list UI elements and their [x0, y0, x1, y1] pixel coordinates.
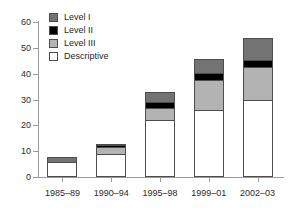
bar-segment-descriptive[interactable] — [96, 154, 126, 177]
x-axis-tick — [160, 178, 161, 182]
legend-item-label: Level I — [64, 13, 91, 22]
bar-segment-level-i[interactable] — [194, 59, 224, 75]
bar-stack — [194, 59, 224, 177]
bar-segment-descriptive[interactable] — [47, 162, 77, 178]
legend-item-descriptive[interactable]: Descriptive — [49, 50, 109, 63]
legend-swatch-icon — [49, 26, 58, 35]
x-axis-tick — [111, 178, 112, 182]
bar-segment-level-iii[interactable] — [243, 67, 273, 101]
y-axis-tick-label: 60 — [0, 18, 31, 27]
legend-swatch-icon — [49, 39, 58, 48]
legend-item-level-iii[interactable]: Level III — [49, 37, 109, 50]
y-axis-tick-label: 30 — [0, 96, 31, 105]
x-axis-line — [38, 177, 284, 178]
y-axis-tick-label: 20 — [0, 121, 31, 130]
bar-stack — [96, 144, 126, 177]
bar-segment-descriptive[interactable] — [243, 100, 273, 178]
chart-legend: Level ILevel IILevel IIIDescriptive — [49, 11, 109, 63]
y-axis-tick-label: 50 — [0, 44, 31, 53]
legend-item-label: Descriptive — [64, 52, 109, 61]
legend-item-label: Level II — [64, 26, 93, 35]
y-axis-tick-label: 40 — [0, 70, 31, 79]
bar-stack — [243, 38, 273, 177]
legend-swatch-icon — [49, 13, 58, 22]
x-axis-label-1995–98: 1995–98 — [136, 188, 185, 198]
bar-1990–94[interactable] — [96, 141, 126, 177]
bar-segment-descriptive[interactable] — [145, 120, 175, 177]
bar-stack — [47, 157, 77, 177]
bar-segment-level-i[interactable] — [243, 38, 273, 61]
bar-1999–01[interactable] — [194, 56, 224, 177]
bar-1995–98[interactable] — [145, 89, 175, 177]
x-axis-label-1990–94: 1990–94 — [87, 188, 136, 198]
y-axis-tick-label: 10 — [0, 147, 31, 156]
x-axis-label-2002–03: 2002–03 — [233, 188, 282, 198]
x-axis-tick — [209, 178, 210, 182]
bar-segment-descriptive[interactable] — [194, 110, 224, 177]
bar-segment-level-iii[interactable] — [194, 80, 224, 111]
y-axis-tick-label: 0 — [0, 173, 31, 182]
bar-1985–89[interactable] — [47, 156, 77, 177]
legend-item-level-i[interactable]: Level I — [49, 11, 109, 24]
x-axis-tick — [62, 178, 63, 182]
legend-item-label: Level III — [64, 39, 96, 48]
bar-stack — [145, 92, 175, 177]
stacked-bar-chart: 0102030405060 1985–891990–941995–981999–… — [0, 0, 289, 214]
y-axis-tick — [33, 177, 38, 178]
legend-item-level-ii[interactable]: Level II — [49, 24, 109, 37]
legend-swatch-icon — [49, 52, 58, 61]
x-axis-label-1999–01: 1999–01 — [184, 188, 233, 198]
bar-2002–03[interactable] — [243, 35, 273, 177]
x-axis-tick — [258, 178, 259, 182]
x-axis-label-1985–89: 1985–89 — [38, 188, 87, 198]
